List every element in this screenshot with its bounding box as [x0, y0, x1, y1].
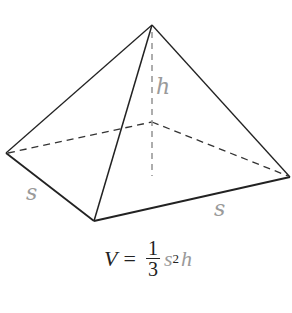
formula-equals: = — [123, 246, 135, 272]
side-label-right: s — [214, 196, 225, 221]
edge-apex-front — [94, 25, 152, 221]
edge-apex-left — [6, 25, 152, 153]
height-label: h — [156, 74, 170, 99]
edge-apex-right — [152, 25, 290, 177]
formula-height-var: h — [181, 246, 192, 272]
base-edge-left-front — [6, 153, 94, 221]
hidden-edge-left-back — [8, 122, 152, 153]
formula-denominator: 3 — [148, 259, 158, 279]
volume-formula: V = 1 3 s2 h — [104, 238, 192, 279]
formula-side-var: s — [164, 246, 173, 272]
formula-fraction: 1 3 — [146, 238, 160, 279]
base-edge-front-right — [94, 177, 290, 221]
side-label-left: s — [26, 180, 37, 205]
formula-volume-var: V — [104, 246, 117, 272]
formula-numerator: 1 — [146, 238, 160, 259]
hidden-edge-back-right — [152, 122, 288, 176]
formula-exponent: 2 — [172, 251, 179, 267]
